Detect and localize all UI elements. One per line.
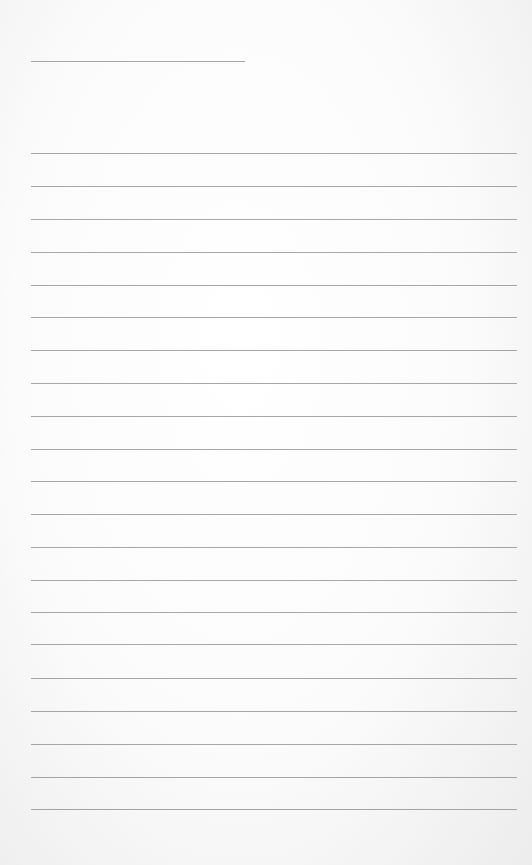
writing-rule-line — [31, 514, 517, 515]
writing-rule-line — [31, 350, 517, 351]
writing-rule-line — [31, 777, 517, 778]
writing-rule-line — [31, 383, 517, 384]
writing-rule-line — [31, 547, 517, 548]
writing-rule-line — [31, 481, 517, 482]
writing-rule-line — [31, 449, 517, 450]
writing-rule-line — [31, 580, 517, 581]
writing-rule-line — [31, 153, 517, 154]
writing-rule-line — [31, 809, 517, 810]
writing-rule-line — [31, 252, 517, 253]
writing-rule-line — [31, 285, 517, 286]
writing-rule-line — [31, 644, 517, 645]
writing-rule-line — [31, 612, 517, 613]
writing-rule-line — [31, 219, 517, 220]
writing-rule-line — [31, 317, 517, 318]
writing-rule-line — [31, 678, 517, 679]
writing-rule-line — [31, 744, 517, 745]
title-blank-line — [31, 61, 245, 62]
writing-rule-line — [31, 711, 517, 712]
writing-rule-line — [31, 416, 517, 417]
writing-rule-line — [31, 186, 517, 187]
